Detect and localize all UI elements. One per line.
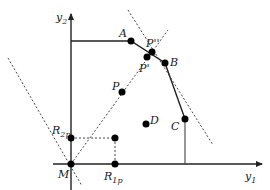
- label-d: D: [149, 114, 159, 127]
- label-a: A: [118, 27, 127, 40]
- label-m: M: [57, 168, 70, 181]
- y1-axis-label: y1: [244, 170, 256, 185]
- label-p-prime: P': [138, 62, 149, 75]
- label-p: P: [111, 80, 120, 93]
- r-box-dashed: [71, 138, 115, 164]
- label-b: B: [169, 56, 178, 69]
- y2-axis-label: y2: [55, 11, 67, 26]
- production-frontier-diagram: y2 y1 A B C D P P' P'' M R2p R1p: [0, 0, 270, 190]
- point-c-dot: [182, 116, 189, 123]
- label-p-double-prime: P'': [145, 37, 159, 50]
- point-a-dot: [128, 38, 135, 45]
- point-r1p-dot: [112, 161, 119, 168]
- label-c: C: [171, 120, 180, 133]
- point-p-prime-dot: [144, 54, 151, 61]
- frontier-line: [71, 41, 185, 119]
- point-b-dot: [162, 60, 169, 67]
- label-r1p: R1p: [103, 170, 123, 185]
- point-m-dot: [68, 161, 75, 168]
- point-d-dot: [143, 121, 150, 128]
- point-p-dot: [119, 89, 126, 96]
- label-r2p: R2p: [51, 124, 71, 139]
- point-r-corner-dot: [112, 135, 119, 142]
